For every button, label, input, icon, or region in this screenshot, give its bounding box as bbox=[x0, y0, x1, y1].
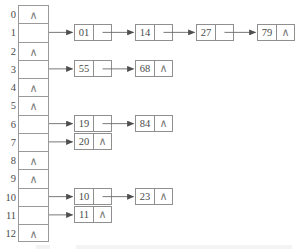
bucket-index-label: 12 bbox=[0, 225, 16, 243]
bucket-index-label: 2 bbox=[0, 43, 16, 61]
bucket-row[interactable]: 6 bbox=[18, 115, 49, 133]
bucket-row[interactable]: 4∧ bbox=[18, 78, 49, 96]
chain-node[interactable]: 84∧ bbox=[135, 115, 173, 132]
bucket-row[interactable]: 11 bbox=[18, 206, 49, 224]
node-key-value: 19 bbox=[75, 116, 93, 131]
chain-node[interactable]: 19 bbox=[74, 115, 112, 132]
bucket-row[interactable]: 2∧ bbox=[18, 42, 49, 60]
chain-node[interactable]: 27 bbox=[196, 24, 234, 41]
node-key-value: 23 bbox=[136, 189, 154, 204]
bucket-row[interactable]: 12∧ bbox=[18, 224, 49, 242]
chain-node[interactable]: 79∧ bbox=[257, 24, 295, 41]
bucket-index-label: 1 bbox=[0, 24, 16, 42]
node-null-pointer-icon: ∧ bbox=[276, 25, 294, 40]
node-key-value: 84 bbox=[136, 116, 154, 131]
chain-node[interactable]: 20∧ bbox=[74, 133, 112, 150]
bucket-row[interactable]: 0∧ bbox=[18, 5, 49, 23]
node-next-pointer bbox=[154, 25, 172, 40]
node-next-pointer bbox=[93, 116, 111, 131]
bucket-row[interactable]: 1 bbox=[18, 23, 49, 41]
hash-table-chaining-diagram: 0∧12∧34∧5∧678∧9∧101112∧ 01142779∧5568∧19… bbox=[0, 0, 296, 252]
node-next-pointer bbox=[93, 61, 111, 76]
node-key-value: 10 bbox=[75, 189, 93, 204]
node-next-pointer bbox=[93, 25, 111, 40]
chain-node[interactable]: 23∧ bbox=[135, 188, 173, 205]
bucket-index-label: 6 bbox=[0, 116, 16, 134]
node-key-value: 14 bbox=[136, 25, 154, 40]
node-null-pointer-icon: ∧ bbox=[154, 116, 172, 131]
bucket-index-label: 4 bbox=[0, 79, 16, 97]
null-pointer-icon: ∧ bbox=[19, 43, 48, 61]
node-key-value: 55 bbox=[75, 61, 93, 76]
node-null-pointer-icon: ∧ bbox=[154, 189, 172, 204]
chain-node[interactable]: 11∧ bbox=[74, 206, 112, 223]
null-pointer-icon: ∧ bbox=[19, 97, 48, 115]
bucket-index-label: 10 bbox=[0, 189, 16, 207]
chain-node[interactable]: 55 bbox=[74, 60, 112, 77]
page-caption-artifact bbox=[36, 245, 292, 249]
bucket-row[interactable]: 9∧ bbox=[18, 169, 49, 187]
null-pointer-icon: ∧ bbox=[19, 225, 48, 243]
bucket-index-label: 0 bbox=[0, 6, 16, 24]
chain-node[interactable]: 10 bbox=[74, 188, 112, 205]
node-null-pointer-icon: ∧ bbox=[154, 61, 172, 76]
bucket-row[interactable]: 10 bbox=[18, 188, 49, 206]
node-null-pointer-icon: ∧ bbox=[93, 134, 111, 149]
bucket-array: 0∧12∧34∧5∧678∧9∧101112∧ bbox=[18, 5, 49, 242]
bucket-index-label: 8 bbox=[0, 152, 16, 170]
null-pointer-icon: ∧ bbox=[19, 152, 48, 170]
node-key-value: 79 bbox=[258, 25, 276, 40]
chain-node[interactable]: 14 bbox=[135, 24, 173, 41]
chain-node[interactable]: 68∧ bbox=[135, 60, 173, 77]
node-key-value: 01 bbox=[75, 25, 93, 40]
bucket-index-label: 9 bbox=[0, 170, 16, 188]
node-key-value: 27 bbox=[197, 25, 215, 40]
null-pointer-icon: ∧ bbox=[19, 6, 48, 24]
node-key-value: 11 bbox=[75, 207, 93, 222]
bucket-index-label: 3 bbox=[0, 61, 16, 79]
chain-node[interactable]: 01 bbox=[74, 24, 112, 41]
bucket-row[interactable]: 5∧ bbox=[18, 96, 49, 114]
node-next-pointer bbox=[93, 189, 111, 204]
node-next-pointer bbox=[215, 25, 233, 40]
null-pointer-icon: ∧ bbox=[19, 79, 48, 97]
node-key-value: 68 bbox=[136, 61, 154, 76]
bucket-row[interactable]: 8∧ bbox=[18, 151, 49, 169]
bucket-index-label: 11 bbox=[0, 207, 16, 225]
bucket-row[interactable]: 3 bbox=[18, 60, 49, 78]
bucket-row[interactable]: 7 bbox=[18, 133, 49, 151]
node-key-value: 20 bbox=[75, 134, 93, 149]
bucket-index-label: 5 bbox=[0, 97, 16, 115]
bucket-index-label: 7 bbox=[0, 134, 16, 152]
null-pointer-icon: ∧ bbox=[19, 170, 48, 188]
node-null-pointer-icon: ∧ bbox=[93, 207, 111, 222]
